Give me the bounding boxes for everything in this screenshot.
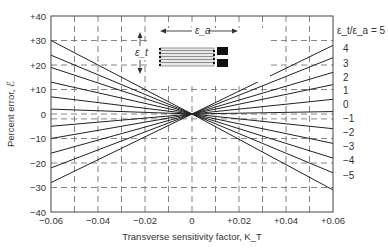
ratio-label: 3 <box>343 58 349 69</box>
y-tick-label: +40 <box>30 11 46 22</box>
x-tick-label: −0.04 <box>86 215 110 226</box>
y-tick-label: −10 <box>30 133 46 144</box>
ratio-label: 1 <box>343 85 349 96</box>
y-tick-label: −20 <box>30 158 46 169</box>
ratio-label: 0 <box>343 99 349 110</box>
y-tick-label: +10 <box>30 84 46 95</box>
ratio-label: 4 <box>343 43 349 54</box>
y-tick-label: −30 <box>30 182 46 193</box>
ratio-label: −5 <box>343 170 355 181</box>
x-tick-label: +0.02 <box>227 215 251 226</box>
y-tick-label: −40 <box>30 207 46 218</box>
ratio-label: −3 <box>343 141 355 152</box>
y-tick-label: +20 <box>30 60 46 71</box>
y-axis-label: Percent error, ℰ <box>5 81 16 147</box>
ratio-label: ε_t/ε_a = 5 <box>337 25 386 36</box>
x-axis-label: Transverse sensitivity factor, K_T <box>122 231 262 242</box>
y-tick-label: 0 <box>41 109 46 120</box>
ratio-label: −4 <box>343 155 355 166</box>
arrow-down-icon <box>138 68 143 74</box>
transverse-strain-label: ε_t <box>135 47 149 58</box>
ratio-labels: ε_t/ε_a = 543210−1−2−3−4−5 <box>337 25 386 181</box>
x-tick-label: 0 <box>189 215 194 226</box>
x-tick-label: +0.06 <box>321 215 345 226</box>
x-tick-label: +0.04 <box>274 215 298 226</box>
ratio-label: −1 <box>343 113 355 124</box>
y-tick-label: +30 <box>30 35 46 46</box>
axial-strain-label: ε_a <box>195 25 211 36</box>
x-tick-label: −0.02 <box>133 215 157 226</box>
arrow-up-icon <box>138 32 143 38</box>
x-axis-ticks: −0.06−0.04−0.020+0.02+0.04+0.06 <box>39 215 345 226</box>
ratio-label: 2 <box>343 72 349 83</box>
ratio-label: −2 <box>343 127 355 138</box>
transverse-sensitivity-chart: −0.06−0.04−0.020+0.02+0.04+0.06 +40+30+2… <box>0 0 388 248</box>
y-axis-ticks: +40+30+20+100−10−20−30−40 <box>30 11 46 218</box>
strain-gauge-inset: ε_a ε_t <box>134 25 270 82</box>
